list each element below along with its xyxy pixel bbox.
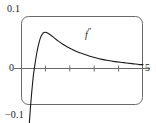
y-axis-label-max: 0.1: [7, 4, 20, 14]
curve-label: f″: [85, 27, 91, 40]
curve-label-prime: ″: [88, 26, 91, 36]
x-axis-label-max: 5: [145, 63, 150, 73]
y-axis-label-min: −0.1: [5, 110, 24, 120]
figure-container: 0.1 0 −0.1 5 f″: [0, 0, 156, 123]
y-axis-label-zero: 0: [9, 63, 14, 73]
plot-frame: [22, 17, 143, 105]
plot-canvas: [0, 0, 156, 123]
